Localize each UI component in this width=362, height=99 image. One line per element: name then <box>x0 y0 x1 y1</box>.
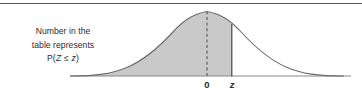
shaded-area-under-curve <box>70 12 232 77</box>
normal-distribution-figure: Number in the table represents P(Z ≤ z) … <box>0 0 362 99</box>
axis-tick-label-mean: 0 <box>197 79 217 90</box>
axis-tick-label-z: z <box>222 79 242 90</box>
distribution-curve-canvas <box>0 0 362 99</box>
